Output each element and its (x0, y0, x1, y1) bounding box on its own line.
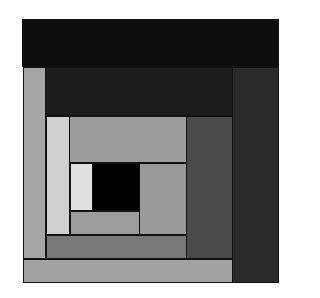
piece-bottom-strip (23, 259, 233, 283)
piece-inner-bottom-strip (46, 235, 187, 259)
piece-top-band (22, 19, 279, 67)
piece-second-top-band (45, 67, 233, 116)
piece-inner-top-block (69, 116, 187, 163)
piece-left-strip (23, 67, 46, 259)
piece-inner-right-strip (186, 116, 233, 259)
piece-center-bottom-strip (70, 211, 140, 235)
piece-center-right-block (139, 163, 187, 235)
piece-right-strip (232, 67, 279, 283)
log-cabin-block (22, 19, 279, 283)
piece-center-left-strip (70, 163, 93, 211)
piece-inner-left-strip (46, 116, 70, 235)
piece-center-square (92, 163, 140, 211)
